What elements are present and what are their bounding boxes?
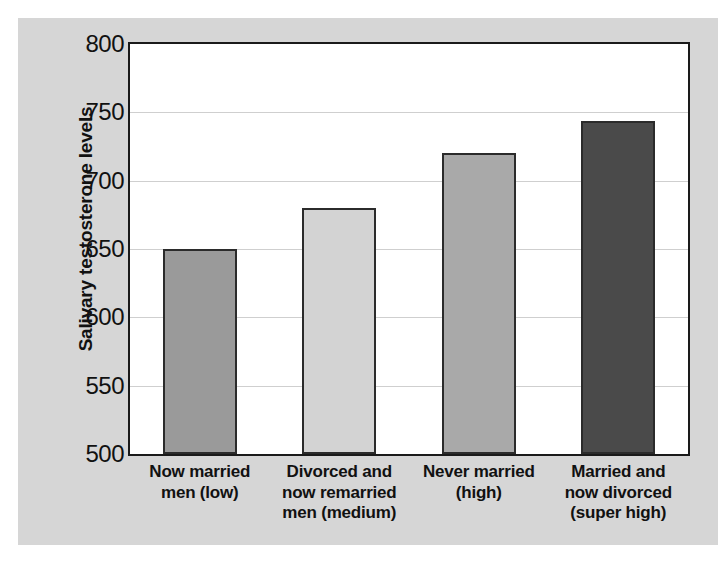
x-axis-label-line: men (medium): [262, 503, 418, 524]
bars-layer: [130, 44, 688, 454]
y-axis-tick-label: 700: [56, 169, 124, 193]
y-axis-tick-label: 550: [56, 374, 124, 398]
x-axis-label-line: (high): [401, 483, 557, 504]
y-axis-tick-labels: 500550600650700750800: [56, 42, 124, 476]
x-axis-label-line: (super high): [541, 503, 697, 524]
y-axis-tick-label: 750: [56, 100, 124, 124]
x-axis-label-line: Divorced and: [262, 462, 418, 483]
bar: [163, 249, 237, 454]
x-axis-category-label: Divorced andnow remarriedmen (medium): [262, 462, 418, 524]
figure-panel: Salivary testosterone levels 50055060065…: [18, 18, 718, 545]
x-axis-category-labels: Now marriedmen (low)Divorced andnow rema…: [128, 462, 690, 546]
plot-area: [128, 42, 690, 456]
y-axis-tick-label: 500: [56, 442, 124, 466]
x-axis-label-line: now divorced: [541, 483, 697, 504]
x-axis-category-label: Now marriedmen (low): [122, 462, 278, 503]
bar: [581, 121, 655, 454]
bar: [442, 153, 516, 454]
x-axis-category-label: Married andnow divorced(super high): [541, 462, 697, 524]
y-axis-tick-label: 650: [56, 237, 124, 261]
x-axis-label-line: Never married: [401, 462, 557, 483]
y-axis-tick-label: 600: [56, 305, 124, 329]
x-axis-label-line: men (low): [122, 483, 278, 504]
x-axis-label-line: now remarried: [262, 483, 418, 504]
x-axis-label-line: Now married: [122, 462, 278, 483]
x-axis-category-label: Never married(high): [401, 462, 557, 503]
y-axis-tick-label: 800: [56, 32, 124, 56]
bar: [302, 208, 376, 454]
x-axis-label-line: Married and: [541, 462, 697, 483]
